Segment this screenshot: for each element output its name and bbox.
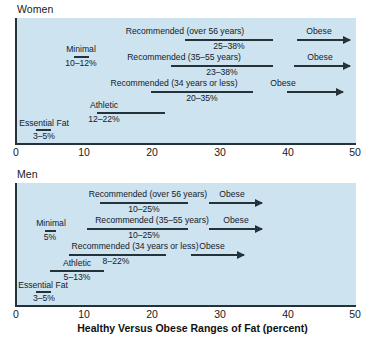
tick-men-20: 20 [146, 308, 158, 320]
women-row-1-obese-label: Obese [307, 53, 332, 62]
men-row-2-value: 8–22% [103, 257, 130, 266]
tick-men-30: 30 [214, 308, 226, 320]
men-row-2-obese-label: Obese [199, 242, 224, 251]
tick-men-40: 40 [282, 308, 294, 320]
women-row-4-label: Athletic [90, 101, 118, 110]
tick-women-40: 40 [282, 146, 294, 158]
men-row-0-obese-arrow-icon [209, 202, 262, 204]
men-row-5-label: Essential Fat [18, 281, 68, 290]
women-row-0-obese-label: Obese [306, 27, 331, 36]
women-row-3-value: 10–12% [65, 59, 97, 68]
women-row-2-label: Recommended (34 years or less) [110, 79, 237, 88]
men-row-0-label: Recommended (over 56 years) [89, 190, 207, 199]
x-axis-line-men [15, 305, 356, 307]
men-row-2-label: Recommended (34 years or less) [71, 242, 198, 251]
men-row-0-obese-label: Obese [219, 190, 244, 199]
men-row-4-label: Athletic [63, 259, 91, 268]
women-row-0-value: 25–38% [213, 42, 245, 51]
x-axis-ticks-women: 0 10 20 30 40 50 [0, 146, 385, 160]
women-row-4-value: 12–22% [88, 115, 120, 124]
men-row-0-value: 10–25% [128, 205, 160, 214]
men-row-1-label: Recommended (35–55 years) [95, 216, 209, 225]
tick-men-10: 10 [78, 308, 90, 320]
tick-men-0: 0 [13, 308, 19, 320]
tick-women-50: 50 [349, 146, 361, 158]
men-row-5-value: 3–5% [33, 294, 55, 303]
women-row-3-label: Minimal [66, 45, 96, 54]
tick-women-0: 0 [13, 146, 19, 158]
men-row-1-value: 10–25% [128, 231, 160, 240]
women-row-1-obese-arrow-icon [294, 65, 350, 67]
women-row-0-label: Recommended (over 56 years) [126, 27, 244, 36]
x-axis-ticks-men: 0 10 20 30 40 50 [0, 308, 385, 322]
panel-title-women: Women [17, 3, 54, 15]
tick-women-20: 20 [146, 146, 158, 158]
men-row-1-obese-label: Obese [223, 216, 248, 225]
tick-men-50: 50 [349, 308, 361, 320]
tick-women-30: 30 [214, 146, 226, 158]
women-row-2-obese-arrow-icon [287, 91, 343, 93]
body-fat-range-figure: Women Recommended (over 56 years) 25–38%… [0, 0, 385, 338]
panel-title-men: Men [17, 168, 38, 180]
x-axis-line-women [15, 143, 356, 145]
women-row-5-value: 3–5% [33, 132, 55, 141]
women-row-1-value: 23–38% [206, 68, 238, 77]
men-row-2-obese-arrow-icon [191, 254, 244, 256]
women-row-2-value: 20–35% [186, 94, 218, 103]
women-row-0-obese-arrow-icon [297, 39, 350, 41]
men-row-3-label: Minimal [36, 219, 66, 228]
figure-caption: Healthy Versus Obese Ranges of Fat (perc… [0, 322, 385, 334]
tick-women-10: 10 [78, 146, 90, 158]
men-row-1-obese-arrow-icon [209, 228, 262, 230]
men-row-3-value: 5% [44, 233, 56, 242]
women-row-1-label: Recommended (35–55 years) [127, 53, 241, 62]
women-row-2-obese-label: Obese [270, 79, 295, 88]
women-row-5-label: Essential Fat [19, 119, 69, 128]
